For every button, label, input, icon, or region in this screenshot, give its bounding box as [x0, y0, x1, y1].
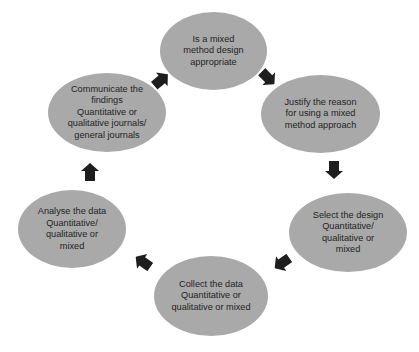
node-justify-label: Justify the reason for using a mixed met…: [284, 97, 356, 132]
node-justify: Justify the reason for using a mixed met…: [261, 75, 380, 153]
arrow-collect-to-analyse-icon: [130, 249, 155, 274]
node-select-label: Select the design Quantitative/ qualitat…: [313, 210, 384, 256]
node-collect-label: Collect the data Quantitative or qualita…: [171, 279, 250, 314]
node-select: Select the design Quantitative/ qualitat…: [289, 193, 407, 272]
node-decide-label: Is a mixed method design appropriate: [183, 34, 243, 69]
arrow-analyse-to-communicate-icon: [81, 163, 99, 181]
node-communicate: Communicate the findings Quantitative or…: [48, 73, 166, 152]
arrow-justify-to-select-icon: [325, 161, 343, 179]
node-analyse: Analyse the data Quantitative/ qualitati…: [18, 190, 126, 268]
node-analyse-label: Analyse the data Quantitative/ qualitati…: [38, 206, 106, 252]
node-decide: Is a mixed method design appropriate: [160, 12, 267, 90]
node-collect: Collect the data Quantitative or qualita…: [154, 256, 268, 336]
node-communicate-label: Communicate the findings Quantitative or…: [68, 84, 147, 142]
mixed-methods-cycle-diagram: Is a mixed method design appropriate Jus…: [0, 0, 419, 352]
arrow-select-to-collect-icon: [269, 250, 294, 275]
